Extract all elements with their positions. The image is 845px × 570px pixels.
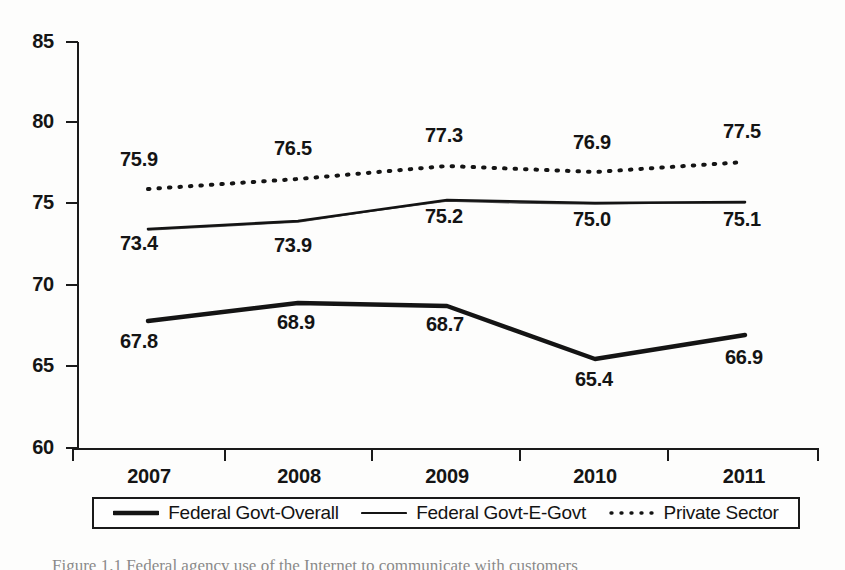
- data-label-federal-egovt-2009: 75.2: [409, 205, 479, 228]
- dotted-line-icon: [609, 507, 655, 519]
- x-tick-label-2011: 2011: [699, 465, 789, 488]
- data-label-federal-egovt-2011: 75.1: [707, 208, 777, 231]
- data-label-private-sector-2007: 75.9: [104, 148, 174, 171]
- y-tick-label-60: 60: [8, 436, 54, 459]
- y-axis-ticks: [66, 42, 78, 448]
- legend-item-federal-overall[interactable]: Federal Govt-Overall: [113, 502, 338, 524]
- y-tick-label-65: 65: [8, 354, 54, 377]
- data-label-private-sector-2011: 77.5: [707, 120, 777, 143]
- data-label-federal-overall-2008: 68.9: [261, 311, 331, 334]
- legend-label-federal-egovt: Federal Govt-E-Govt: [416, 502, 586, 524]
- data-label-federal-egovt-2007: 73.4: [104, 232, 174, 255]
- data-label-private-sector-2009: 77.3: [409, 124, 479, 147]
- data-label-private-sector-2008: 76.5: [258, 137, 328, 160]
- y-tick-label-85: 85: [8, 30, 54, 53]
- y-tick-label-70: 70: [8, 273, 54, 296]
- y-tick-label-80: 80: [8, 110, 54, 133]
- figure-caption: Figure 1.1 Federal agency use of the Int…: [52, 556, 812, 570]
- x-tick-label-2009: 2009: [402, 465, 492, 488]
- solid-thin-line-icon: [361, 507, 407, 519]
- legend-label-private-sector: Private Sector: [664, 502, 779, 524]
- legend-item-federal-egovt[interactable]: Federal Govt-E-Govt: [361, 502, 586, 524]
- solid-thick-line-icon: [113, 507, 159, 519]
- x-tick-label-2010: 2010: [550, 465, 640, 488]
- x-axis-ticks: [73, 449, 818, 461]
- data-label-federal-overall-2010: 65.4: [559, 368, 629, 391]
- x-tick-label-2007: 2007: [104, 465, 194, 488]
- data-label-federal-egovt-2010: 75.0: [557, 208, 627, 231]
- legend-item-private-sector[interactable]: Private Sector: [609, 502, 779, 524]
- y-tick-label-75: 75: [8, 191, 54, 214]
- data-label-private-sector-2010: 76.9: [557, 131, 627, 154]
- x-tick-label-2008: 2008: [254, 465, 344, 488]
- legend-label-federal-overall: Federal Govt-Overall: [168, 502, 338, 524]
- data-label-federal-overall-2007: 67.8: [104, 330, 174, 353]
- data-label-federal-overall-2011: 66.9: [709, 346, 779, 369]
- series-private-sector-line: [148, 162, 745, 189]
- chart-page: 85 80 75 70 65 60 2007 2008 2009 2010 20…: [0, 0, 845, 570]
- chart-legend: Federal Govt-Overall Federal Govt-E-Govt…: [92, 497, 800, 529]
- data-label-federal-overall-2009: 68.7: [410, 313, 480, 336]
- data-label-federal-egovt-2008: 73.9: [258, 234, 328, 257]
